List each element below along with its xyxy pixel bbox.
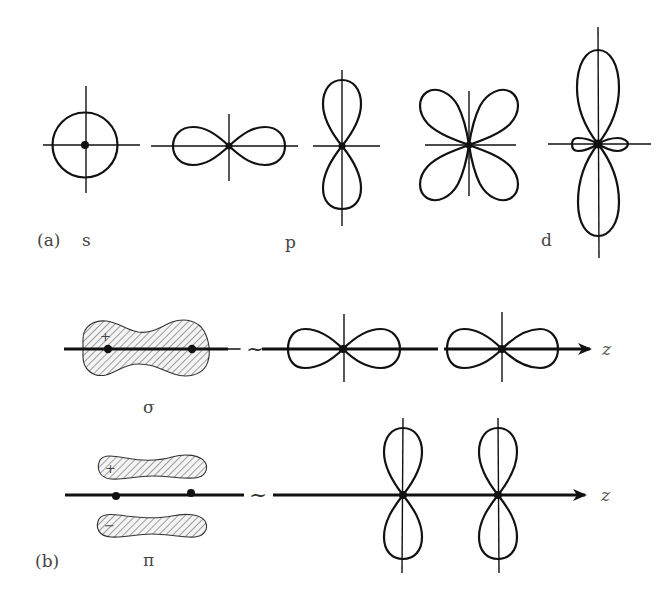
p-label: p <box>285 232 296 252</box>
diagram-canvas: (a) s p d + ~ z σ + <box>0 0 664 597</box>
pi-p2-nucleus <box>494 491 502 499</box>
part-a: (a) s p d <box>37 27 651 258</box>
sigma-plus-sign: + <box>100 329 111 344</box>
d-label: d <box>541 230 552 250</box>
dxy-lower-left-lobe <box>420 145 469 200</box>
dxy-lower-right-lobe <box>469 145 518 200</box>
pi-bond-row: + − ~ z (b) π <box>35 418 611 573</box>
sigma-nucleus-a <box>104 345 112 353</box>
sigma-p2-nucleus <box>498 345 506 353</box>
pi-nucleus-b <box>187 489 195 497</box>
sigma-label: σ <box>143 397 155 417</box>
pi-nucleus-a <box>112 492 120 500</box>
part-a-label: (a) <box>37 230 60 250</box>
pi-label: π <box>143 550 154 570</box>
pi-equivalence-tilde: ~ <box>249 482 267 507</box>
dxy-upper-right-lobe <box>469 90 518 145</box>
pi-z-label: z <box>600 485 611 505</box>
sigma-equivalence-tilde: ~ <box>246 336 264 361</box>
s-label: s <box>82 230 91 250</box>
py-nucleus <box>339 143 346 150</box>
dz2-nucleus <box>594 140 603 149</box>
sigma-p1-nucleus <box>339 345 347 353</box>
p-orbital-vertical <box>313 70 380 226</box>
s-nucleus <box>81 141 89 149</box>
dxy-upper-left-lobe <box>420 90 469 145</box>
orbital-figure: (a) s p d + ~ z σ + <box>0 0 664 597</box>
part-b-label: (b) <box>35 551 59 571</box>
sigma-z-label: z <box>601 339 612 359</box>
dxy-nucleus <box>466 142 473 149</box>
pi-minus-sign: − <box>104 518 115 533</box>
s-orbital <box>43 86 140 193</box>
d-orbital-z2 <box>548 27 651 258</box>
p-orbital-horizontal <box>151 114 298 181</box>
pi-plus-sign: + <box>105 461 116 476</box>
px-nucleus <box>226 143 233 150</box>
sigma-bond-row: + ~ z σ <box>64 312 612 417</box>
sigma-nucleus-b <box>188 345 196 353</box>
pi-p1-nucleus <box>399 491 407 499</box>
d-orbital-cloverleaf <box>420 90 518 200</box>
